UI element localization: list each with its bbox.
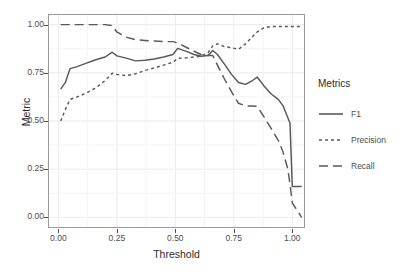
y-tick-mark xyxy=(44,217,48,218)
legend-entry-label: Precision xyxy=(351,135,386,145)
legend: Metrics F1PrecisionRecall xyxy=(318,78,398,179)
y-tick-label: 0.75 xyxy=(14,67,44,77)
x-tick-label: 0.25 xyxy=(97,233,137,243)
chart-figure: Metric Threshold 0.000.250.500.751.00 0.… xyxy=(0,0,400,277)
x-axis-title: Threshold xyxy=(48,248,305,260)
x-tick-mark xyxy=(58,229,59,233)
x-tick-mark xyxy=(292,229,293,233)
y-tick-label: 0.00 xyxy=(14,211,44,221)
y-tick-mark xyxy=(44,25,48,26)
x-tick-label: 1.00 xyxy=(272,233,312,243)
gridlines xyxy=(49,15,304,227)
x-axis-tick-labels: 0.000.250.500.751.00 xyxy=(0,233,400,247)
series-line-precision xyxy=(61,27,302,121)
plot-canvas xyxy=(49,15,304,227)
y-tick-mark xyxy=(44,169,48,170)
x-tick-label: 0.75 xyxy=(214,233,254,243)
x-tick-mark xyxy=(175,229,176,233)
legend-entry-f1[interactable]: F1 xyxy=(318,101,398,127)
dotted-line-key xyxy=(318,132,344,148)
solid-line-key xyxy=(318,106,344,122)
dashed-line-key xyxy=(318,158,344,174)
x-tick-label: 0.00 xyxy=(38,233,78,243)
legend-entry-label: Recall xyxy=(351,161,375,171)
legend-entry-precision[interactable]: Precision xyxy=(318,127,398,153)
x-tick-mark xyxy=(117,229,118,233)
plot-panel xyxy=(48,14,305,228)
y-tick-mark xyxy=(44,73,48,74)
y-tick-label: 1.00 xyxy=(14,19,44,29)
legend-entry-recall[interactable]: Recall xyxy=(318,153,398,179)
legend-entry-label: F1 xyxy=(351,109,361,119)
y-tick-label: 0.50 xyxy=(14,115,44,125)
y-tick-label: 0.25 xyxy=(14,163,44,173)
x-tick-label: 0.50 xyxy=(155,233,195,243)
legend-entries: F1PrecisionRecall xyxy=(318,101,398,179)
legend-title: Metrics xyxy=(318,78,398,89)
series-line-f1 xyxy=(61,48,302,186)
y-tick-mark xyxy=(44,121,48,122)
x-tick-mark xyxy=(234,229,235,233)
